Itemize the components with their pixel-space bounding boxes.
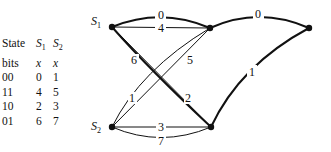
node-top-middle [207, 25, 213, 31]
edge-label: 4 [158, 21, 164, 35]
node-label-s1: S1 [91, 14, 101, 30]
edge-label: 7 [158, 134, 164, 148]
edge-label: 0 [158, 8, 164, 22]
node-s2 [109, 124, 115, 130]
edge-label: 2 [185, 91, 191, 105]
edge-label: 5 [187, 53, 193, 67]
trellis-diagram: 0 4 6 5 1 2 3 7 0 1 S1 S2 [0, 0, 331, 152]
edge-label: 0 [255, 7, 261, 21]
edge-bm-r [211, 28, 309, 127]
edge-label: 6 [131, 53, 137, 67]
node-label-s2: S2 [91, 119, 101, 135]
edge-label: 1 [129, 91, 135, 105]
edge-label: 3 [158, 120, 164, 134]
node-s1 [109, 24, 115, 30]
node-right [306, 25, 312, 31]
node-bottom-middle [208, 124, 214, 130]
edge-label: 1 [249, 65, 255, 79]
